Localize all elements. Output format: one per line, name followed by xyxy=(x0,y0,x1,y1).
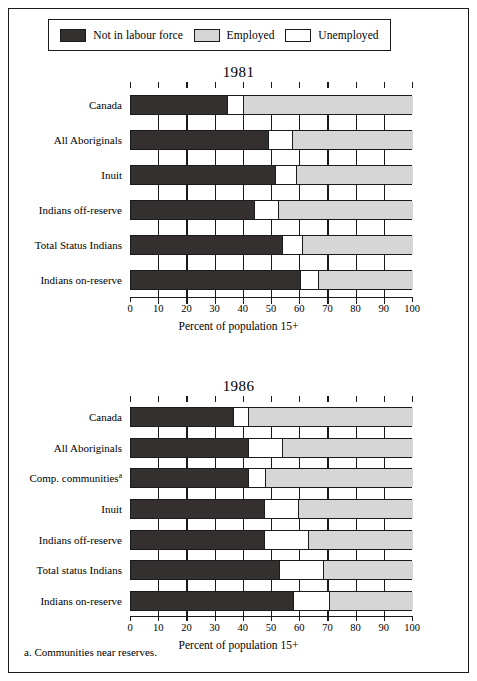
legend-label-not-in-labour-force: Not in labour force xyxy=(93,29,183,41)
inter-bar-tick xyxy=(186,488,187,499)
plot-area-1981: CanadaAll AboriginalsInuitIndians off-re… xyxy=(130,88,412,297)
bar-row-label: Indians off-reserve xyxy=(39,534,122,545)
x-axis-tick-top xyxy=(271,82,272,88)
x-axis-tick-top xyxy=(384,396,385,402)
x-axis-tick-label: 90 xyxy=(379,303,390,314)
x-axis-tick-top xyxy=(158,82,159,88)
inter-bar-tick xyxy=(158,290,159,305)
inter-bar-tick xyxy=(299,255,300,270)
x-axis-tick-top xyxy=(215,82,216,88)
inter-bar-tick xyxy=(384,220,385,235)
x-axis-tick-top xyxy=(186,396,187,402)
x-axis-tick-top xyxy=(299,82,300,88)
inter-bar-tick xyxy=(327,458,328,469)
x-axis-tick-top xyxy=(356,82,357,88)
inter-bar-tick xyxy=(243,115,244,130)
bar-row-label: Indians on-reserve xyxy=(40,595,122,606)
inter-bar-tick xyxy=(327,150,328,165)
inter-bar-tick xyxy=(186,115,187,130)
segment-employed xyxy=(244,96,413,114)
inter-bar-tick xyxy=(327,611,328,622)
x-axis-tick-label: 100 xyxy=(404,622,420,633)
x-axis-tick xyxy=(130,297,131,302)
segment-employed xyxy=(303,236,413,254)
segment-not-in-labour-force xyxy=(131,592,293,610)
x-axis-tick-label: 10 xyxy=(153,622,164,633)
x-axis-tick-top xyxy=(356,396,357,402)
inter-bar-tick xyxy=(271,519,272,530)
bar-row: Comp. communitiesa xyxy=(130,468,412,488)
inter-bar-tick xyxy=(384,519,385,530)
inter-bar-tick xyxy=(243,580,244,591)
stacked-bar xyxy=(130,235,412,255)
inter-bar-tick xyxy=(158,115,159,130)
segment-not-in-labour-force xyxy=(131,500,264,518)
inter-bar-tick xyxy=(299,185,300,200)
inter-bar-tick xyxy=(186,255,187,270)
inter-bar-tick xyxy=(327,255,328,270)
footnote: a. Communities near reserves. xyxy=(24,646,157,658)
segment-unemployed xyxy=(268,131,293,149)
inter-bar-tick xyxy=(215,185,216,200)
bar-row-label: Indians on-reserve xyxy=(40,274,122,285)
axis-title-1981: Percent of population 15+ xyxy=(0,320,477,332)
inter-bar-tick xyxy=(158,255,159,270)
inter-bar-tick xyxy=(327,185,328,200)
inter-bar-tick xyxy=(384,185,385,200)
x-axis-tick-top xyxy=(186,82,187,88)
inter-bar-tick xyxy=(356,611,357,622)
legend-label-unemployed: Unemployed xyxy=(318,29,378,41)
inter-bar-tick xyxy=(299,115,300,130)
legend-swatch-unemployed xyxy=(285,29,311,42)
inter-bar-tick xyxy=(271,255,272,270)
inter-bar-tick xyxy=(356,519,357,530)
segment-employed xyxy=(249,408,413,426)
segment-unemployed xyxy=(233,408,250,426)
x-axis-tick-label: 60 xyxy=(294,303,305,314)
inter-bar-tick xyxy=(271,115,272,130)
stacked-bar xyxy=(130,165,412,185)
segment-employed xyxy=(266,469,413,487)
x-axis-tick-label: 10 xyxy=(153,303,164,314)
x-axis-tick-label: 50 xyxy=(266,303,277,314)
inter-bar-tick xyxy=(215,580,216,591)
inter-bar-tick xyxy=(186,150,187,165)
x-axis-tick-label: 60 xyxy=(294,622,305,633)
x-axis-tick-top xyxy=(412,82,413,88)
bar-row-label: Canada xyxy=(89,100,122,111)
inter-bar-tick xyxy=(158,550,159,561)
inter-bar-tick xyxy=(327,580,328,591)
inter-bar-tick xyxy=(186,290,187,305)
inter-bar-tick xyxy=(158,580,159,591)
segment-employed xyxy=(309,531,413,549)
inter-bar-tick xyxy=(356,220,357,235)
inter-bar-tick xyxy=(271,488,272,499)
x-axis-tick-top xyxy=(327,396,328,402)
x-axis-tick-label: 40 xyxy=(238,303,249,314)
x-axis-tick-label: 0 xyxy=(127,622,132,633)
inter-bar-tick xyxy=(243,185,244,200)
inter-bar-tick xyxy=(158,488,159,499)
segment-unemployed xyxy=(227,96,244,114)
segment-employed xyxy=(324,561,413,579)
legend-swatch-employed xyxy=(194,29,220,42)
chart-title-1986: 1986 xyxy=(0,378,477,395)
legend-swatch-not-in-labour-force xyxy=(60,29,86,42)
segment-unemployed xyxy=(282,236,303,254)
inter-bar-tick xyxy=(356,115,357,130)
bar-row: Total status Indians xyxy=(130,560,412,580)
x-axis-tick-label: 20 xyxy=(181,303,192,314)
stacked-bar xyxy=(130,560,412,580)
inter-bar-tick xyxy=(243,427,244,438)
segment-unemployed xyxy=(264,500,299,518)
inter-bar-tick xyxy=(299,611,300,622)
bar-row: All Aboriginals xyxy=(130,130,412,150)
inter-bar-tick xyxy=(186,519,187,530)
inter-bar-tick xyxy=(271,220,272,235)
x-axis-tick-label: 30 xyxy=(209,303,220,314)
x-axis-tick-top xyxy=(215,396,216,402)
inter-bar-tick xyxy=(215,458,216,469)
stacked-bar xyxy=(130,200,412,220)
inter-bar-tick xyxy=(243,611,244,622)
x-axis-tick-label: 30 xyxy=(209,622,220,633)
